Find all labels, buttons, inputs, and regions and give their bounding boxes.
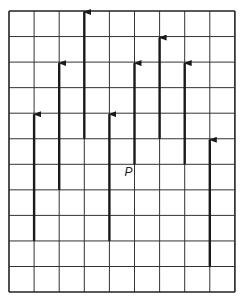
vector-grid-diagram: P: [0, 0, 249, 300]
grid-lines: [9, 11, 235, 292]
point-p-label: P: [125, 165, 133, 179]
